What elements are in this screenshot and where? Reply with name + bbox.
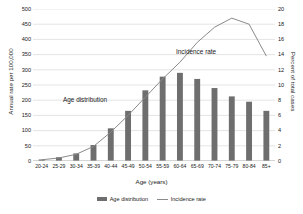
y-tick-left-500: 500 — [13, 6, 31, 12]
bar-50-54 — [142, 90, 148, 161]
legend-item-incidence-rate: Incidence rate — [157, 196, 206, 202]
bar-series — [39, 73, 270, 161]
y-tick-left-350: 350 — [13, 51, 31, 57]
bar-60-64 — [177, 73, 183, 161]
y-tick-right-0: 0 — [278, 158, 296, 164]
y-tick-left-250: 250 — [13, 82, 31, 88]
legend-line-swatch-icon — [157, 199, 168, 200]
gridlines — [33, 9, 275, 161]
y-tick-right-14: 14 — [278, 51, 296, 57]
y-tick-right-4: 4 — [278, 127, 296, 133]
x-axis-title: Age (years) — [0, 178, 303, 185]
y-tick-right-12: 12 — [278, 67, 296, 73]
y-tick-left-450: 450 — [13, 21, 31, 27]
annotation-age-distribution: Age distribution — [63, 96, 107, 103]
annotation-incidence-rate: Incidence rate — [176, 48, 216, 55]
legend-label-age-distribution: Age distribution — [110, 196, 149, 202]
bar-85+ — [263, 111, 269, 161]
plot-area — [33, 9, 275, 161]
y-tick-right-8: 8 — [278, 97, 296, 103]
plot-svg — [33, 9, 275, 161]
y-tick-right-18: 18 — [278, 21, 296, 27]
bar-55-59 — [160, 77, 166, 161]
bar-80-84 — [246, 102, 252, 161]
y-tick-right-20: 20 — [278, 6, 296, 12]
y-tick-left-0: 0 — [13, 158, 31, 164]
y-tick-left-150: 150 — [13, 112, 31, 118]
chart-legend: Age distribution Incidence rate — [0, 196, 303, 202]
incidence-age-distribution-chart: Annual rate per 100,000 Percent of total… — [0, 0, 303, 214]
bar-65-69 — [194, 79, 200, 161]
y-tick-right-16: 16 — [278, 36, 296, 42]
x-tick-85+: 85+ — [255, 163, 277, 169]
y-tick-right-6: 6 — [278, 112, 296, 118]
y-tick-right-2: 2 — [278, 143, 296, 149]
y-tick-left-400: 400 — [13, 36, 31, 42]
y-tick-left-50: 50 — [13, 143, 31, 149]
y-tick-left-200: 200 — [13, 97, 31, 103]
bar-75-79 — [229, 96, 235, 161]
y-tick-left-100: 100 — [13, 127, 31, 133]
y-tick-right-10: 10 — [278, 82, 296, 88]
y-tick-left-300: 300 — [13, 67, 31, 73]
legend-label-incidence-rate: Incidence rate — [171, 196, 206, 202]
legend-item-age-distribution: Age distribution — [97, 196, 148, 202]
bar-45-49 — [125, 111, 131, 161]
legend-bar-swatch-icon — [97, 197, 107, 200]
bar-70-74 — [212, 88, 218, 161]
